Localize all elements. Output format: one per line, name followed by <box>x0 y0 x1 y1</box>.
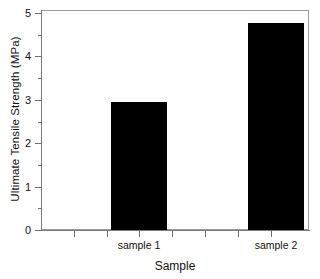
x-tick-3 <box>172 231 173 237</box>
y-axis-title: Ultimate Tensile Strength (MPa) <box>9 1 25 237</box>
x-axis-spine <box>41 230 310 231</box>
bar-sample-1 <box>111 102 167 230</box>
y-axis-spine <box>41 10 42 231</box>
x-tick-label-sample-2: sample 2 <box>231 239 320 251</box>
y-minor-tick-1 <box>38 165 42 166</box>
x-tick-2 <box>139 231 140 237</box>
x-tick-6 <box>271 231 272 237</box>
y-tick-label-0: 0 <box>5 225 31 235</box>
y-tick-label-2: 2 <box>5 138 31 148</box>
y-tick-label-3: 3 <box>5 95 31 105</box>
chart-figure: Ultimate Tensile Strength (MPa) 0 1 2 3 … <box>0 0 320 279</box>
y-minor-tick-0 <box>38 208 42 209</box>
y-tick-5 <box>35 13 42 14</box>
y-minor-tick-4 <box>38 35 42 36</box>
y-tick-3 <box>35 100 42 101</box>
y-tick-1 <box>35 187 42 188</box>
y-minor-tick-3 <box>38 78 42 79</box>
x-axis-title: Sample <box>41 259 309 273</box>
y-tick-label-5: 5 <box>5 8 31 18</box>
x-tick-0 <box>74 231 75 237</box>
y-tick-2 <box>35 143 42 144</box>
y-tick-4 <box>35 56 42 57</box>
y-tick-0 <box>35 230 42 231</box>
y-tick-label-1: 1 <box>5 182 31 192</box>
x-tick-label-sample-1: sample 1 <box>94 239 184 251</box>
y-tick-label-4: 4 <box>5 51 31 61</box>
y-minor-tick-2 <box>38 122 42 123</box>
x-tick-1 <box>107 231 108 237</box>
bar-sample-2 <box>248 23 304 230</box>
x-tick-5 <box>238 231 239 237</box>
x-tick-4 <box>205 231 206 237</box>
